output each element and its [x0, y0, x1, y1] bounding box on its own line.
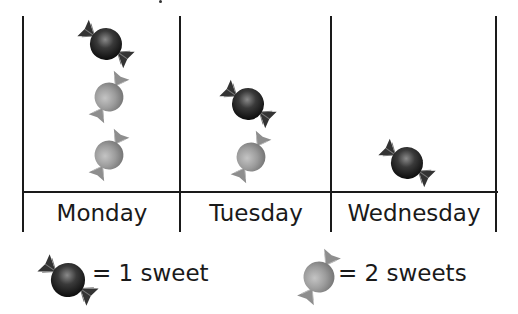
- light-sweet-icon: [82, 128, 136, 182]
- dark-sweet-icon: [377, 133, 437, 193]
- cropped-text-fragment: [159, 0, 162, 3]
- day-label-wednesday: Wednesday: [332, 196, 496, 230]
- legend-one-sweet-label: = 1 sweet: [92, 258, 209, 288]
- dark-sweet-icon: [76, 14, 136, 74]
- legend-dark-sweet-icon: [36, 248, 100, 312]
- day-label-tuesday: Tuesday: [181, 196, 331, 230]
- dark-sweet-icon: [218, 74, 278, 134]
- light-sweet-icon: [82, 70, 136, 124]
- light-sweet-icon: [224, 130, 278, 184]
- legend-two-sweets-label: = 2 sweets: [338, 258, 467, 288]
- day-label-monday: Monday: [24, 196, 180, 230]
